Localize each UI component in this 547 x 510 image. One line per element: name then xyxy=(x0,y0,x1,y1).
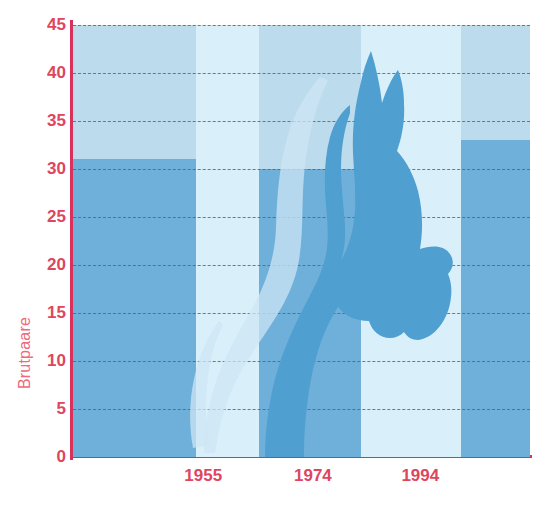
plot-area xyxy=(73,25,530,457)
gridline-30 xyxy=(73,169,530,170)
gridline-20 xyxy=(73,265,530,266)
gridline-40 xyxy=(73,73,530,74)
gridline-25 xyxy=(73,217,530,218)
bar-top-1940 xyxy=(73,159,196,457)
gridline-15 xyxy=(73,313,530,314)
y-tick-35: 35 xyxy=(32,112,66,129)
gridline-35 xyxy=(73,121,530,122)
y-tick-5: 5 xyxy=(32,400,66,417)
bar-headroom-1940 xyxy=(73,25,196,159)
x-tick-1994: 1994 xyxy=(401,466,439,486)
x-tick-1955: 1955 xyxy=(184,466,222,486)
y-tick-0: 0 xyxy=(32,448,66,465)
y-tick-15: 15 xyxy=(32,304,66,321)
y-tick-10: 10 xyxy=(32,352,66,369)
gridline-5 xyxy=(73,409,530,410)
bar-headroom-1974 xyxy=(259,25,362,169)
y-tick-40: 40 xyxy=(32,64,66,81)
y-tick-20: 20 xyxy=(32,256,66,273)
y-axis-tick-group: 051015202530354045 xyxy=(0,0,66,510)
gridline-45 xyxy=(73,25,530,26)
y-tick-45: 45 xyxy=(32,16,66,33)
bar-light-1955 xyxy=(196,25,258,457)
bar-light-1994 xyxy=(361,68,461,457)
y-tick-25: 25 xyxy=(32,208,66,225)
x-tick-1974: 1974 xyxy=(294,466,332,486)
chart-container: Brutpaare 051015202530354045 19551974199… xyxy=(0,0,547,510)
bar-headroom-2000 xyxy=(461,25,530,140)
gridline-10 xyxy=(73,361,530,362)
y-tick-30: 30 xyxy=(32,160,66,177)
